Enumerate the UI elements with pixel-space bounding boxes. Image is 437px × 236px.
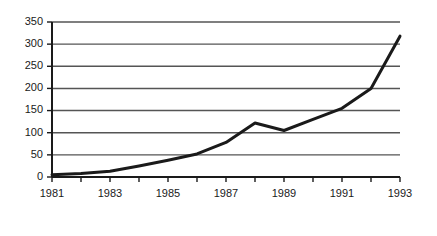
y-axis-tick-label: 0 bbox=[37, 170, 43, 182]
y-axis-tick-label: 150 bbox=[25, 103, 43, 115]
chart-canvas: 050100150200250300350 198119831985198719… bbox=[0, 0, 437, 236]
chart-background bbox=[0, 0, 437, 236]
x-axis-tick-label: 1985 bbox=[156, 187, 180, 199]
x-axis-tick-label: 1991 bbox=[330, 187, 354, 199]
y-axis-tick-label: 250 bbox=[25, 59, 43, 71]
y-axis-tick-label: 100 bbox=[25, 126, 43, 138]
x-axis-tick-label: 1987 bbox=[214, 187, 238, 199]
x-axis-tick-label: 1989 bbox=[272, 187, 296, 199]
y-axis-tick-label: 50 bbox=[31, 148, 43, 160]
y-axis-tick-label: 300 bbox=[25, 37, 43, 49]
x-axis-tick-label: 1983 bbox=[98, 187, 122, 199]
y-axis-tick-label: 200 bbox=[25, 81, 43, 93]
y-axis-tick-label: 350 bbox=[25, 15, 43, 27]
x-axis-tick-label: 1981 bbox=[40, 187, 64, 199]
line-chart: 050100150200250300350 198119831985198719… bbox=[0, 0, 437, 236]
x-axis-tick-label: 1993 bbox=[388, 187, 412, 199]
